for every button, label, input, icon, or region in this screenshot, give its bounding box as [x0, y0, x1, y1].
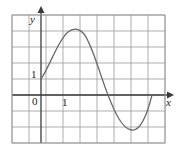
y-axis-label: y — [30, 14, 35, 25]
coordinate-plot — [0, 0, 177, 156]
curve-path — [41, 29, 152, 130]
arrow-up-icon — [38, 6, 45, 13]
x-unit-tick-label: 1 — [62, 97, 68, 108]
origin-label: 0 — [32, 96, 38, 107]
x-axis-label: x — [166, 97, 171, 108]
graph-figure: y x 0 1 1 — [0, 0, 177, 156]
y-unit-tick-label: 1 — [31, 69, 37, 80]
